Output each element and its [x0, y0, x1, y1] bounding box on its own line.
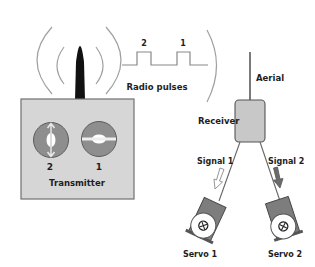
pulse-1-label: 1	[180, 39, 186, 48]
servo-1	[185, 196, 229, 244]
outer-left-arc	[37, 27, 52, 94]
servo-2	[263, 195, 304, 242]
signal-2-label: Signal 2	[268, 157, 304, 166]
dial-2-label: 2	[47, 162, 53, 172]
large-right-arc	[207, 30, 217, 102]
inner-left-arc	[57, 47, 64, 84]
inner-right-arc	[96, 47, 103, 84]
servo-2-label: Servo 2	[268, 250, 302, 259]
transmitter-antenna	[75, 46, 85, 100]
signal-1-label: Signal 1	[197, 157, 234, 166]
dial-1-label: 1	[96, 162, 102, 172]
aerial-label: Aerial	[256, 73, 284, 83]
radio-control-diagram: 2 1 Transmitter 2 1 Radio pulses Aerial …	[0, 0, 315, 267]
outer-right-arc	[106, 27, 121, 94]
radio-pulses-label: Radio pulses	[126, 82, 187, 92]
dial-1	[82, 122, 117, 157]
radio-pulse-waveform	[122, 52, 208, 65]
transmitter-label: Transmitter	[49, 178, 106, 188]
pulse-2-label: 2	[141, 39, 147, 48]
receiver-label: Receiver	[198, 116, 240, 126]
servo-1-label: Servo 1	[183, 250, 218, 259]
dial-2	[34, 123, 69, 158]
signal-1-arrow-icon	[214, 168, 224, 189]
